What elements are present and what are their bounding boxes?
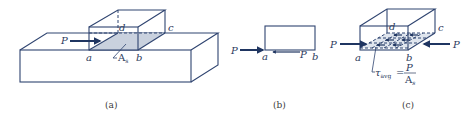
- shear-area: [89, 33, 165, 50]
- caption-b: (b): [273, 100, 286, 110]
- point-a: a: [86, 52, 92, 63]
- free-body-block: [265, 26, 315, 50]
- point-c: c: [168, 22, 174, 33]
- svg-text:=: =: [396, 67, 404, 78]
- svg-text:P: P: [405, 62, 413, 73]
- panel-c: P P a b c d τavg = P As (c): [329, 9, 460, 110]
- force-left-label: P: [329, 39, 337, 50]
- point-d: d: [389, 21, 395, 32]
- point-a: a: [262, 51, 268, 62]
- point-b: b: [312, 51, 318, 62]
- force-right-label: P: [452, 39, 460, 50]
- point-a: a: [355, 52, 361, 63]
- panel-b: P P a b (b): [230, 26, 318, 110]
- caption-c: (c): [402, 100, 414, 110]
- applied-force-label: P: [230, 45, 238, 56]
- point-d: d: [119, 22, 125, 33]
- average-shear-formula: τavg = P As: [375, 62, 416, 86]
- shear-stress-figure: P a b c d As (a) P P a b (b): [0, 0, 469, 115]
- point-b: b: [136, 52, 142, 63]
- caption-a: (a): [105, 100, 117, 110]
- shear-force-label: P: [299, 49, 307, 60]
- area-label: As: [117, 52, 128, 64]
- svg-text:As: As: [404, 74, 415, 86]
- svg-text:τavg: τavg: [375, 67, 392, 80]
- point-c: c: [438, 22, 444, 33]
- force-label: P: [60, 35, 68, 46]
- panel-a: P a b c d As (a): [20, 10, 218, 110]
